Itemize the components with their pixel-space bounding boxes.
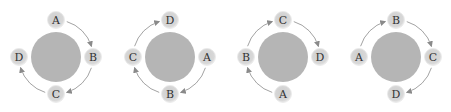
body-a: A <box>199 49 216 66</box>
central-body <box>145 32 195 82</box>
body-a: A <box>275 86 292 103</box>
body-label: C <box>52 88 60 101</box>
body-label: D <box>166 14 175 27</box>
body-label: A <box>354 51 364 64</box>
panel-3: CDAB <box>238 12 329 103</box>
panel-1: ABCD <box>11 12 102 103</box>
body-label: B <box>166 88 174 101</box>
body-b: B <box>388 12 405 29</box>
panel-2: DABC <box>125 12 216 103</box>
body-label: C <box>129 51 137 64</box>
body-label: B <box>89 51 97 64</box>
body-b: B <box>85 49 102 66</box>
body-c: C <box>125 49 142 66</box>
body-label: A <box>51 14 61 27</box>
orbit-diagram: ABCDDABCCDABBCDA <box>0 0 451 112</box>
body-d: D <box>312 49 329 66</box>
body-label: D <box>15 51 24 64</box>
panel-4: BCDA <box>351 12 442 103</box>
body-c: C <box>275 12 292 29</box>
body-label: D <box>392 88 401 101</box>
central-body <box>371 32 421 82</box>
body-d: D <box>162 12 179 29</box>
body-a: A <box>351 49 368 66</box>
body-b: B <box>162 86 179 103</box>
body-c: C <box>425 49 442 66</box>
body-label: C <box>429 51 437 64</box>
body-a: A <box>48 12 65 29</box>
body-label: A <box>278 88 288 101</box>
body-d: D <box>11 49 28 66</box>
body-label: C <box>279 14 287 27</box>
body-b: B <box>238 49 255 66</box>
body-c: C <box>48 86 65 103</box>
body-label: D <box>316 51 325 64</box>
central-body <box>31 32 81 82</box>
central-body <box>258 32 308 82</box>
body-label: B <box>242 51 250 64</box>
body-label: A <box>202 51 212 64</box>
body-d: D <box>388 86 405 103</box>
body-label: B <box>392 14 400 27</box>
